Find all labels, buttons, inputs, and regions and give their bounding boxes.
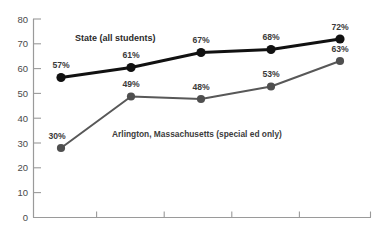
- y-tick-label-40: 40: [17, 113, 28, 124]
- arlington-data-label-1: 30%: [48, 131, 66, 141]
- arlington-point-1: [57, 144, 65, 152]
- arlington-point-2: [127, 92, 135, 100]
- series-annotations: State (all students) Arlington, Massachu…: [75, 33, 282, 139]
- state-series-label: State (all students): [75, 33, 156, 43]
- y-tick-label-70: 70: [17, 38, 28, 49]
- state-data-label-4: 68%: [262, 32, 280, 42]
- arlington-point-4: [267, 82, 275, 90]
- arlington-point-3: [197, 95, 205, 103]
- arlington-series-label: Arlington, Massachusetts (special ed onl…: [112, 129, 282, 139]
- state-data-label-3: 67%: [192, 35, 210, 45]
- y-tick-label-30: 30: [17, 138, 28, 149]
- state-data-label-1: 57%: [52, 60, 70, 70]
- line-chart: 80 70 60 50 40 30 20 10 0: [0, 0, 382, 239]
- y-axis-tick-labels: 80 70 60 50 40 30 20 10 0: [17, 14, 28, 223]
- state-point-2: [126, 63, 135, 72]
- arlington-data-labels: 30% 49% 48% 53% 63%: [48, 44, 349, 142]
- y-tick-label-20: 20: [17, 162, 28, 173]
- state-point-4: [266, 45, 275, 54]
- arlington-data-label-2: 49%: [122, 79, 140, 89]
- arlington-point-5: [336, 57, 344, 65]
- y-tick-label-0: 0: [23, 212, 28, 223]
- y-tick-label-10: 10: [17, 187, 28, 198]
- state-data-label-2: 61%: [122, 50, 140, 60]
- y-tick-label-80: 80: [17, 14, 28, 25]
- state-point-5: [335, 34, 344, 43]
- state-data-label-5: 72%: [331, 22, 349, 32]
- y-axis-ticks: [33, 19, 41, 193]
- arlington-data-label-4: 53%: [262, 69, 280, 79]
- chart-container: 80 70 60 50 40 30 20 10 0: [0, 0, 382, 239]
- x-axis-ticks: [97, 212, 371, 218]
- y-tick-label-50: 50: [17, 88, 28, 99]
- state-point-3: [196, 48, 205, 57]
- arlington-data-label-3: 48%: [192, 82, 210, 92]
- y-tick-label-60: 60: [17, 63, 28, 74]
- arlington-data-label-5: 63%: [331, 44, 349, 54]
- state-point-1: [56, 73, 65, 82]
